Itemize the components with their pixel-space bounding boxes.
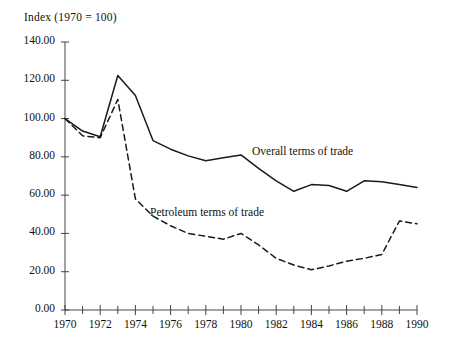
y-tick-label: 100.00 xyxy=(3,111,55,123)
series-label-petroleum-terms-of-trade: Petroleum terms of trade xyxy=(150,206,264,218)
x-tick-label: 1982 xyxy=(256,318,296,330)
series-line-overall-terms-of-trade xyxy=(65,76,417,192)
x-tick-label: 1980 xyxy=(221,318,261,330)
plot-area xyxy=(0,0,450,343)
y-tick-label: 80.00 xyxy=(3,149,55,161)
series-paths xyxy=(65,76,417,270)
x-tick-label: 1976 xyxy=(151,318,191,330)
terms-of-trade-line-chart: Index (1970 = 100) 0.0020.0040.0060.0080… xyxy=(0,0,450,343)
x-tick-label: 1974 xyxy=(115,318,155,330)
x-tick-label: 1984 xyxy=(291,318,331,330)
x-tick-marks xyxy=(65,305,417,315)
x-tick-label: 1988 xyxy=(362,318,402,330)
axis-lines xyxy=(65,42,417,310)
series-label-overall-terms-of-trade: Overall terms of trade xyxy=(252,145,353,157)
y-tick-label: 120.00 xyxy=(3,72,55,84)
x-tick-label: 1972 xyxy=(80,318,120,330)
y-tick-label: 20.00 xyxy=(3,264,55,276)
x-tick-label: 1986 xyxy=(327,318,367,330)
series-line-petroleum-terms-of-trade xyxy=(65,99,417,269)
y-tick-label: 60.00 xyxy=(3,187,55,199)
x-tick-label: 1990 xyxy=(397,318,437,330)
x-tick-label: 1970 xyxy=(45,318,85,330)
x-tick-label: 1978 xyxy=(186,318,226,330)
y-tick-label: 40.00 xyxy=(3,225,55,237)
y-tick-label: 140.00 xyxy=(3,34,55,46)
y-tick-label: 0.00 xyxy=(3,302,55,314)
